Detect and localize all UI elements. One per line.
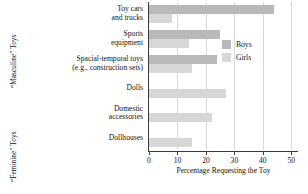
category-label-line1: Dolls (127, 83, 143, 92)
bar-girls-1 (149, 39, 189, 48)
legend-label-girls: Girls (236, 53, 251, 62)
gridline (206, 2, 207, 150)
x-axis-tick (177, 151, 178, 155)
x-axis-tick-label: 10 (174, 156, 182, 165)
category-label: Domesticaccessories (109, 105, 143, 122)
x-axis-tick-label: 0 (147, 156, 151, 165)
legend-item-boys: Boys (222, 38, 252, 51)
bar-girls-0 (149, 14, 172, 23)
x-axis-tick-label: 20 (202, 156, 210, 165)
category-label-line2: (e.g., construction sets) (72, 64, 143, 73)
gridline (291, 2, 292, 150)
x-axis-title: Percentage Requesting the Toy (149, 166, 298, 175)
category-label-line2: accessories (109, 113, 143, 122)
category-label-line1: Sports (124, 29, 143, 38)
category-label-line1: Toy cars (117, 4, 143, 13)
x-axis-tick-label: 50 (288, 156, 296, 165)
legend-label-boys: Boys (236, 40, 252, 49)
girls-swatch-icon (222, 53, 231, 62)
category-label-column: Toy carsand trucksSportsequipmentSpacial… (14, 2, 146, 150)
category-label: Toy carsand trucks (112, 5, 143, 22)
x-axis-tick (234, 151, 235, 155)
x-axis-tick (206, 151, 207, 155)
bar-girls-2 (149, 64, 192, 73)
bar-boys-2 (149, 55, 217, 64)
category-label: Sportsequipment (111, 30, 143, 47)
legend: Boys Girls (222, 38, 252, 64)
y-axis-line (148, 2, 149, 152)
category-label: Spacial-temporal toys(e.g., construction… (72, 55, 143, 72)
bar-chart-figure: “Masculine” Toys “Feminine” Toys Toy car… (0, 0, 308, 194)
category-label-line2: and trucks (112, 14, 143, 23)
category-label-line1: Spacial-temporal toys (77, 54, 143, 63)
gridline (234, 2, 235, 150)
legend-item-girls: Girls (222, 51, 252, 64)
bar-boys-1 (149, 30, 220, 39)
gridline (177, 2, 178, 150)
bar-boys-0 (149, 5, 274, 14)
gridline (263, 2, 264, 150)
boys-swatch-icon (222, 40, 231, 49)
x-axis-tick (149, 151, 150, 155)
x-axis-tick-label: 40 (259, 156, 267, 165)
plot-area (149, 2, 297, 150)
x-axis-tick (291, 151, 292, 155)
x-axis-tick (263, 151, 264, 155)
category-label-line2: equipment (111, 39, 143, 48)
bar-girls-4 (149, 113, 212, 122)
bar-girls-3 (149, 89, 226, 98)
x-axis-tick-label: 30 (231, 156, 239, 165)
x-axis-line (149, 151, 298, 152)
category-label: Dollhouses (109, 134, 143, 143)
bar-girls-5 (149, 138, 192, 147)
category-label-line1: Dollhouses (109, 133, 143, 142)
category-label: Dolls (127, 84, 143, 93)
